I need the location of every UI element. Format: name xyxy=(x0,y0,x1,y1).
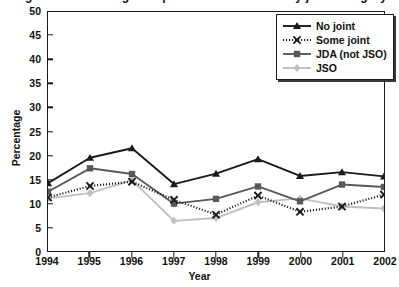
x-axis-title: Year xyxy=(0,270,399,282)
x-axis-tick-mark xyxy=(131,252,132,258)
y-axis-tick-label: 15 xyxy=(29,174,41,186)
series-line xyxy=(48,148,384,184)
legend-label: Some joint xyxy=(312,34,370,46)
data-point-marker xyxy=(213,196,219,202)
data-point-marker xyxy=(129,171,135,177)
legend-item: JDA (not JSO) xyxy=(282,47,387,61)
x-axis-tick-mark xyxy=(300,252,301,258)
data-point-marker xyxy=(128,144,136,151)
y-axis-tick-label: 40 xyxy=(29,53,41,65)
y-axis-tick-label: 10 xyxy=(29,198,41,210)
x-axis-tick-mark xyxy=(89,252,90,258)
y-axis-tick-label: 50 xyxy=(29,5,41,17)
y-axis-tick-mark xyxy=(47,34,53,35)
data-point-marker xyxy=(254,198,261,206)
data-point-marker xyxy=(293,64,300,72)
y-axis-tick-label: 30 xyxy=(29,101,41,113)
y-axis-tick-mark xyxy=(47,107,53,108)
legend-label: JDA (not JSO) xyxy=(312,48,387,60)
y-axis-tick-mark xyxy=(47,58,53,59)
legend-label: JSO xyxy=(312,62,337,74)
data-point-marker xyxy=(86,189,93,197)
y-axis-tick-label: 35 xyxy=(29,77,41,89)
data-point-marker xyxy=(380,204,384,212)
x-axis-tick-mark xyxy=(258,252,259,258)
legend-swatch xyxy=(282,20,312,32)
figure-title-text: Figure 2. Percentage of operations condu… xyxy=(14,0,387,3)
y-axis-tick-mark xyxy=(47,227,53,228)
x-axis-tick-label: 2002 xyxy=(373,255,396,267)
data-point-marker xyxy=(86,182,93,189)
data-point-marker xyxy=(255,183,261,189)
x-axis-tick-mark xyxy=(342,252,343,258)
data-point-marker xyxy=(293,36,300,43)
x-axis-tick-mark xyxy=(173,252,174,258)
legend-swatch xyxy=(282,48,312,60)
legend-swatch xyxy=(282,62,312,74)
y-axis-tick-label: 25 xyxy=(29,126,41,138)
y-axis-tick-label: 45 xyxy=(29,29,41,41)
data-point-marker xyxy=(254,155,262,162)
legend-item: JSO xyxy=(282,61,387,75)
series-no-joint xyxy=(48,144,384,187)
chart-legend: No jointSome jointJDA (not JSO)JSO xyxy=(276,14,394,80)
data-point-marker xyxy=(380,191,384,198)
y-axis-tick-mark xyxy=(47,203,53,204)
y-axis-tick-mark xyxy=(47,179,53,180)
y-axis-tick-mark xyxy=(47,131,53,132)
data-point-marker xyxy=(297,198,303,204)
y-axis-title: Percentage xyxy=(10,98,22,178)
data-point-marker xyxy=(296,208,303,215)
chart-figure: Figure 2. Percentage of operations condu… xyxy=(0,0,399,287)
y-axis-tick-mark xyxy=(47,83,53,84)
legend-item: Some joint xyxy=(282,33,387,47)
data-point-marker xyxy=(339,181,345,187)
y-axis: 05101520253035404550 xyxy=(0,0,47,263)
y-axis-tick-mark xyxy=(47,155,53,156)
x-axis-tick-mark xyxy=(215,252,216,258)
y-axis-tick-label: 20 xyxy=(29,150,41,162)
legend-label: No joint xyxy=(312,20,355,32)
legend-swatch xyxy=(282,34,312,46)
data-point-marker xyxy=(294,51,300,57)
legend-item: No joint xyxy=(282,19,387,33)
y-axis-tick-label: 5 xyxy=(35,222,41,234)
figure-title-clipped: Figure 2. Percentage of operations condu… xyxy=(0,0,399,5)
data-point-marker xyxy=(381,184,384,190)
x-axis-tick-label: 1994 xyxy=(35,255,58,267)
data-point-marker xyxy=(87,165,93,171)
